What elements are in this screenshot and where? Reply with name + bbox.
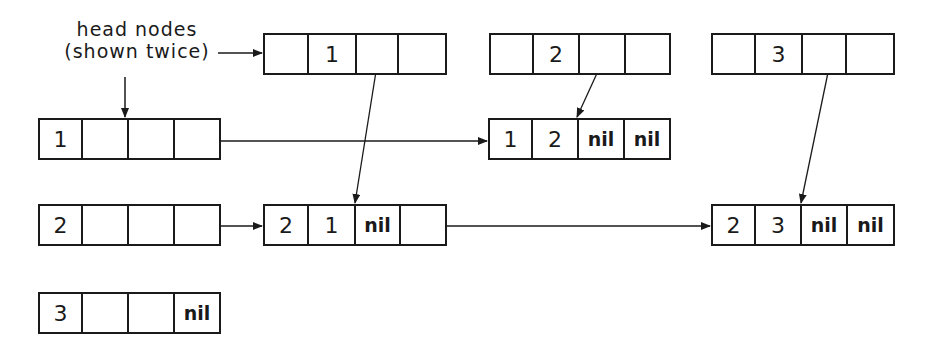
node-field: nil <box>356 206 401 244</box>
node-field <box>491 35 534 73</box>
row-head-node-row3: 3nil <box>38 292 221 334</box>
node-field: nil <box>848 206 893 244</box>
node-field: nil <box>175 294 219 332</box>
node-field <box>626 35 669 73</box>
node-field: 1 <box>309 206 356 244</box>
node-field: 2 <box>713 206 756 244</box>
node-field <box>175 206 219 244</box>
node-field: 3 <box>756 35 803 73</box>
node-field: 2 <box>40 206 83 244</box>
node-field <box>399 35 445 73</box>
annotation-line-1: head nodes <box>52 18 222 40</box>
row-head-node-row2: 2 <box>38 204 221 246</box>
node-field <box>175 120 219 158</box>
element-node-e23: 23nilnil <box>711 204 895 246</box>
node-field <box>847 35 893 73</box>
row-head-node-row1: 1 <box>38 118 221 160</box>
column-head-node-col2: 2 <box>489 33 671 75</box>
element-node-e21: 21nil <box>263 204 447 246</box>
node-field <box>129 294 175 332</box>
node-field <box>401 206 445 244</box>
node-field: 2 <box>533 120 579 158</box>
node-field <box>803 35 847 73</box>
node-field <box>265 35 309 73</box>
node-field <box>129 206 175 244</box>
node-field: 3 <box>40 294 83 332</box>
node-field: 1 <box>490 120 533 158</box>
column-head-node-col1: 1 <box>263 33 447 75</box>
node-field <box>83 294 129 332</box>
node-field: 2 <box>265 206 309 244</box>
node-field <box>713 35 756 73</box>
node-field: 1 <box>40 120 83 158</box>
node-field <box>83 206 129 244</box>
element-node-e12: 12nilnil <box>488 118 671 160</box>
node-field: 3 <box>756 206 802 244</box>
column-head-node-col3: 3 <box>711 33 895 75</box>
node-field <box>129 120 175 158</box>
node-field: nil <box>802 206 848 244</box>
annotation-line-2: (shown twice) <box>52 40 222 62</box>
node-field: 1 <box>309 35 357 73</box>
node-field: 2 <box>534 35 580 73</box>
head-nodes-annotation: head nodes (shown twice) <box>52 18 222 62</box>
node-field <box>580 35 626 73</box>
node-field <box>357 35 399 73</box>
node-field: nil <box>579 120 625 158</box>
node-field <box>83 120 129 158</box>
node-field: nil <box>625 120 669 158</box>
